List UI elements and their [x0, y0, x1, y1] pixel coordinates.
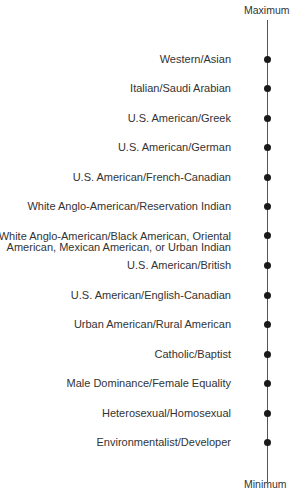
marker-dot-icon: [264, 56, 271, 63]
row-label: U.S. American/English-Canadian: [71, 289, 231, 301]
row-label: U.S. American/Greek: [128, 112, 231, 124]
marker-dot-icon: [264, 203, 271, 210]
row-label: U.S. American/British: [127, 259, 231, 271]
marker-dot-icon: [264, 292, 271, 299]
row-label-line2: American, Mexican American, or Urban Ind…: [7, 241, 231, 253]
row-label: Catholic/Baptist: [155, 348, 231, 360]
marker-dot-icon: [264, 232, 271, 239]
row-label: White Anglo-American/Reservation Indian: [27, 200, 231, 212]
marker-dot-icon: [264, 410, 271, 417]
marker-dot-icon: [264, 115, 271, 122]
row-label: Western/Asian: [160, 53, 231, 65]
row-label: Environmentalist/Developer: [96, 436, 231, 448]
marker-dot-icon: [264, 174, 271, 181]
row-label: Italian/Saudi Arabian: [130, 82, 231, 94]
marker-dot-icon: [264, 439, 271, 446]
marker-dot-icon: [264, 262, 271, 269]
axis-top-label: Maximum: [244, 4, 290, 16]
row-label: Heterosexual/Homosexual: [102, 407, 231, 419]
row-label: Male Dominance/Female Equality: [67, 377, 231, 389]
marker-dot-icon: [264, 321, 271, 328]
row-label: Urban American/Rural American: [74, 318, 231, 330]
row-label: U.S. American/French-Canadian: [73, 171, 231, 183]
marker-dot-icon: [264, 380, 271, 387]
marker-dot-icon: [264, 144, 271, 151]
marker-dot-icon: [264, 351, 271, 358]
row-label: U.S. American/German: [118, 141, 231, 153]
marker-dot-icon: [264, 85, 271, 92]
axis-bottom-label: Minimum: [244, 478, 287, 490]
